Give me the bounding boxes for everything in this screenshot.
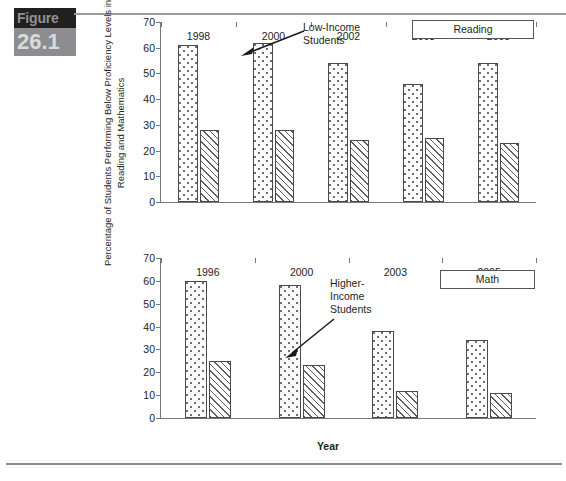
y-tick-mark	[156, 281, 161, 282]
x-tick-mark	[161, 22, 162, 27]
x-tick-mark	[536, 22, 537, 27]
y-tick-label: 30	[143, 119, 155, 131]
bar-hatched	[425, 138, 445, 202]
x-tick-mark	[536, 258, 537, 263]
x-axis-title: Year	[118, 440, 538, 452]
bar-hatched	[275, 130, 295, 202]
bottom-divider-rule	[6, 463, 562, 465]
y-tick-label: 50	[143, 298, 155, 310]
x-tick-label: 2000	[262, 30, 285, 42]
y-tick-mark	[156, 73, 161, 74]
bar-hatched	[396, 391, 418, 418]
x-tick-label: 2000	[290, 266, 313, 278]
chart-title-math: Math	[440, 270, 535, 289]
bar-dotted	[279, 285, 301, 418]
x-tick-label: 1998	[187, 30, 210, 42]
y-tick-mark	[156, 418, 161, 419]
y-tick-label: 10	[143, 389, 155, 401]
y-tick-label: 0	[149, 196, 155, 208]
y-tick-mark	[156, 395, 161, 396]
bar-dotted	[178, 45, 198, 202]
y-tick-label: 40	[143, 93, 155, 105]
y-tick-label: 20	[143, 145, 155, 157]
annotation-higher-income: Higher- Income Students	[330, 277, 371, 316]
plot-area-reading: 01020304050607019982000200220032005	[160, 22, 536, 203]
y-tick-label: 30	[143, 343, 155, 355]
bar-hatched	[500, 143, 520, 202]
y-tick-label: 70	[143, 252, 155, 264]
figure-caption	[14, 468, 554, 479]
y-tick-mark	[156, 349, 161, 350]
y-tick-mark	[156, 327, 161, 328]
bar-dotted	[253, 43, 273, 202]
chart-reading: 01020304050607019982000200220032005	[118, 22, 538, 232]
y-tick-mark	[156, 151, 161, 152]
y-tick-mark	[156, 372, 161, 373]
y-tick-mark	[156, 202, 161, 203]
bar-hatched	[209, 361, 231, 418]
y-tick-mark	[156, 304, 161, 305]
y-tick-label: 0	[149, 412, 155, 424]
figure-badge-word: Figure	[14, 8, 76, 28]
y-tick-mark	[156, 125, 161, 126]
bar-hatched	[200, 130, 220, 202]
x-tick-mark	[442, 258, 443, 263]
chart-title-reading: Reading	[412, 20, 534, 39]
y-tick-label: 20	[143, 366, 155, 378]
bar-dotted	[478, 63, 498, 202]
y-tick-label: 70	[143, 16, 155, 28]
y-tick-label: 40	[143, 321, 155, 333]
bar-hatched	[303, 365, 325, 418]
y-tick-mark	[156, 48, 161, 49]
y-tick-label: 10	[143, 170, 155, 182]
x-tick-label: 2003	[384, 266, 407, 278]
bar-dotted	[328, 63, 348, 202]
top-divider-rule	[74, 13, 566, 15]
x-tick-mark	[236, 22, 237, 27]
annotation-low-income: Low-Income Students	[303, 21, 360, 47]
x-tick-mark	[161, 258, 162, 263]
bar-dotted	[372, 331, 394, 418]
bar-hatched	[350, 140, 370, 202]
bar-hatched	[490, 393, 512, 418]
bar-dotted	[403, 84, 423, 202]
bar-dotted	[185, 281, 207, 418]
x-tick-mark	[386, 22, 387, 27]
y-tick-label: 60	[143, 42, 155, 54]
figure-number-badge: Figure 26.1	[14, 8, 76, 56]
y-tick-label: 60	[143, 275, 155, 287]
x-tick-mark	[255, 258, 256, 263]
x-tick-label: 1996	[196, 266, 219, 278]
y-tick-mark	[156, 99, 161, 100]
y-tick-mark	[156, 176, 161, 177]
bar-dotted	[466, 340, 488, 418]
figure-badge-number: 26.1	[14, 28, 76, 56]
x-tick-mark	[349, 258, 350, 263]
y-tick-label: 50	[143, 67, 155, 79]
